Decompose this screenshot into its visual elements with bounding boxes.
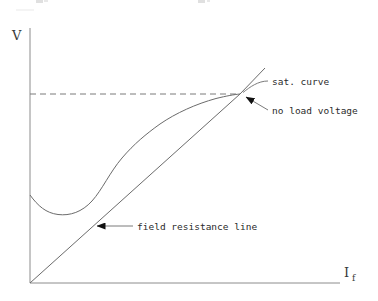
saturation-curve-path bbox=[30, 94, 240, 215]
axes-group bbox=[30, 28, 340, 283]
figure-canvas: V I f sat. curve no load voltage field r… bbox=[0, 0, 378, 301]
no-load-voltage-leader-line bbox=[246, 97, 268, 110]
x-axis-label-subscript: f bbox=[352, 273, 356, 283]
x-axis-label-main: I bbox=[344, 265, 349, 280]
top-edge-artifact bbox=[16, 0, 210, 11]
field-resistance-line-label: field resistance line bbox=[137, 221, 257, 232]
magnetization-curve-figure: V I f sat. curve no load voltage field r… bbox=[0, 0, 378, 301]
no-load-voltage-label: no load voltage bbox=[272, 105, 358, 116]
annotation-leaders-group bbox=[97, 81, 268, 226]
sat-curve-label: sat. curve bbox=[272, 76, 329, 87]
y-axis-label: V bbox=[11, 28, 22, 43]
field-resistance-line-path bbox=[30, 68, 265, 283]
